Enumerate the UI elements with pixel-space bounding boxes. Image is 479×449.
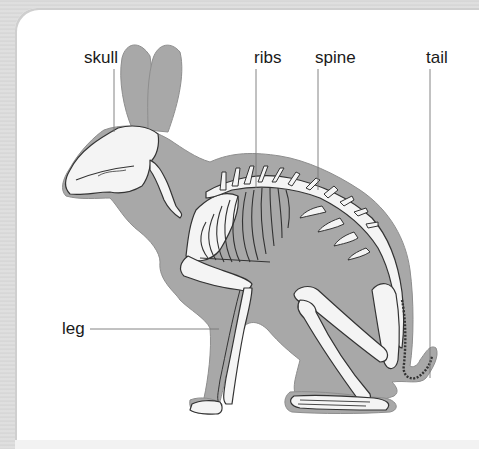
label-tail: tail xyxy=(426,49,448,66)
label-leg: leg xyxy=(62,320,85,337)
label-skull: skull xyxy=(84,49,118,66)
rabbit-skeleton-diagram xyxy=(0,0,479,449)
label-ribs: ribs xyxy=(254,49,281,66)
front-paw xyxy=(190,401,222,414)
label-spine: spine xyxy=(315,49,356,66)
